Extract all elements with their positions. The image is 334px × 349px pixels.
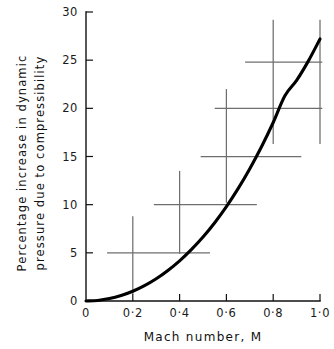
y-tick-label: 5 [70,246,78,260]
x-axis-title: Mach number, M [144,330,263,344]
y-tick-label: 15 [62,150,78,164]
x-tick-label: 0 [82,306,90,320]
x-tick-label: 0·8 [263,306,283,320]
y-tick-label: 30 [62,5,78,19]
x-tick-label: 0·4 [170,306,190,320]
y-tick-label: 0 [70,294,78,308]
y-axis-title-line-1: Percentage increase in dynamic [15,55,29,272]
x-tick-label: 0·6 [216,306,236,320]
y-tick-label: 20 [62,101,78,115]
y-tick-label: 25 [62,53,78,67]
chart-svg: 051015202530 00·20·40·60·81·0 Mach numbe… [0,0,334,349]
chart-background [0,0,334,349]
x-tick-label: 0·2 [123,306,143,320]
x-tick-label: 1·0 [310,306,330,320]
y-tick-label: 10 [62,198,78,212]
chart-figure: 051015202530 00·20·40·60·81·0 Mach numbe… [0,0,334,349]
y-axis-title-line-2: pressure due to compressibility [33,56,47,271]
